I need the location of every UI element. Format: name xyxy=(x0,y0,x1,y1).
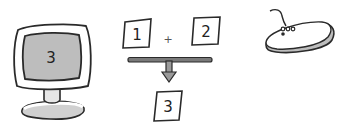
mouse-icon xyxy=(266,10,334,53)
monitor-icon: 3 xyxy=(14,24,91,119)
arrow-down-icon xyxy=(162,61,176,82)
result-card: 3 xyxy=(154,91,182,121)
operand-a-card: 1 xyxy=(123,19,151,48)
mouse-cable xyxy=(270,10,286,26)
operand-b-value: 2 xyxy=(201,23,211,41)
operand-a-value: 1 xyxy=(132,26,142,44)
diagram-canvas: 3 1 + 2 3 xyxy=(0,0,349,136)
result-value: 3 xyxy=(163,98,173,116)
operand-b-card: 2 xyxy=(192,17,220,45)
plus-operator: + xyxy=(163,33,172,46)
monitor-screen-value: 3 xyxy=(46,49,56,67)
